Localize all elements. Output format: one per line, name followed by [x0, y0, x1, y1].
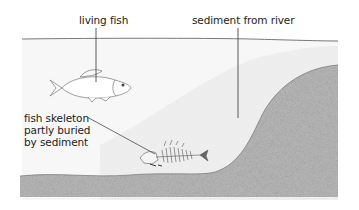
label-fish-skeleton-line-1: fish skeleton: [24, 112, 94, 124]
label-fish-skeleton-line-3: by sediment: [24, 136, 94, 148]
label-fish-skeleton-line-2: partly buried: [24, 124, 94, 136]
diagram-canvas: [0, 0, 359, 210]
label-fish-skeleton: fish skeleton partly buried by sediment: [24, 112, 94, 148]
label-sediment-from-river: sediment from river: [192, 14, 294, 26]
label-living-fish: living fish: [79, 14, 128, 26]
fossil-formation-diagram: living fish sediment from river fish ske…: [0, 0, 359, 210]
